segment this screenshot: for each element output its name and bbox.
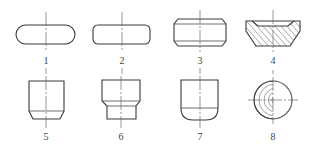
label-4: 4	[271, 55, 276, 66]
label-2: 2	[120, 55, 125, 66]
shape-5-chamfered-cup: 5	[29, 76, 64, 142]
parts-diagram: 1 2 3	[0, 0, 316, 152]
label-5: 5	[44, 131, 49, 142]
shape-1-stadium: 1	[16, 12, 75, 74]
shape-8-sphere-view: 8	[248, 77, 298, 142]
shape-7-rounded-cup: 7	[181, 76, 218, 142]
label-8: 8	[271, 131, 276, 142]
shape-3-chamfered-rect: 3	[174, 10, 226, 74]
shape-2-rounded-rect: 2	[93, 12, 150, 74]
label-1: 1	[44, 55, 49, 66]
shape-6-stepped-cylinder: 6	[102, 76, 140, 142]
label-7: 7	[198, 131, 203, 142]
label-3: 3	[198, 55, 203, 66]
shape-4-hatched-section: 4	[224, 10, 316, 74]
label-6: 6	[119, 131, 124, 142]
